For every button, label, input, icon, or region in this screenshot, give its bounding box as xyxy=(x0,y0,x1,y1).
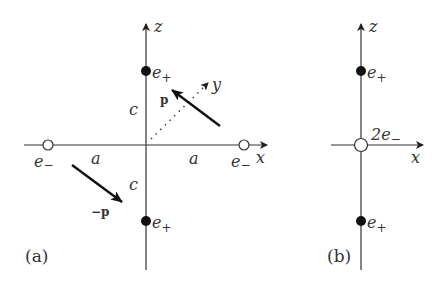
x-axis-label: x xyxy=(256,148,265,167)
panel-caption-b: (b) xyxy=(327,246,351,266)
panel-caption-a: (a) xyxy=(25,246,48,266)
diagram-canvas: z x y e+ e+ e− e− c c a a p −p (a) xyxy=(0,0,442,287)
x-axis-label-b: x xyxy=(411,148,420,167)
charge-label-right: e− xyxy=(231,152,251,172)
momentum-vector-neg-p xyxy=(72,165,122,202)
distance-label-right-a: a xyxy=(189,149,199,168)
negative-charge-right xyxy=(239,140,249,150)
panel-b: z x e+ e+ 2e− (b) xyxy=(327,17,423,270)
charge-label-bottom-b: e+ xyxy=(367,213,387,235)
panel-a: z x y e+ e+ e− e− c c a a p −p (a) xyxy=(24,17,267,270)
charge-label-left: e− xyxy=(34,152,54,172)
positive-charge-top xyxy=(141,66,151,76)
negative-charge-center-b xyxy=(355,139,368,152)
charge-label-top-b: e+ xyxy=(367,63,387,85)
vector-label-neg-p: −p xyxy=(91,205,109,219)
distance-label-upper-c: c xyxy=(129,100,138,119)
vector-label-p: p xyxy=(160,93,168,107)
positive-charge-bottom-b xyxy=(356,216,366,226)
z-axis-label-b: z xyxy=(368,17,378,36)
negative-charge-left xyxy=(43,140,53,150)
positive-charge-top-b xyxy=(356,66,366,76)
positive-charge-bottom xyxy=(141,216,151,226)
distance-label-left-a: a xyxy=(91,149,101,168)
z-axis-label: z xyxy=(153,17,163,36)
charge-label-bottom: e+ xyxy=(152,213,172,235)
momentum-vector-p xyxy=(172,90,220,126)
charge-label-top: e+ xyxy=(152,63,172,85)
distance-label-lower-c: c xyxy=(129,175,138,194)
charge-label-center-b: 2e− xyxy=(370,125,401,146)
y-axis-label: y xyxy=(211,75,222,94)
